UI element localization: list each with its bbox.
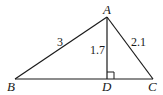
vertex-label-a: A [102,2,111,17]
triangle-diagram: A B D C 3 1.7 2.1 [0,0,163,95]
segment-ac [107,17,153,79]
vertex-label-b: B [7,79,15,94]
length-label-ad: 1.7 [90,43,105,57]
length-label-ac: 2.1 [131,35,146,49]
length-label-ab: 3 [57,35,63,49]
right-angle-marker [107,72,114,79]
vertex-label-d: D [101,79,112,94]
vertex-label-c: C [148,79,157,94]
